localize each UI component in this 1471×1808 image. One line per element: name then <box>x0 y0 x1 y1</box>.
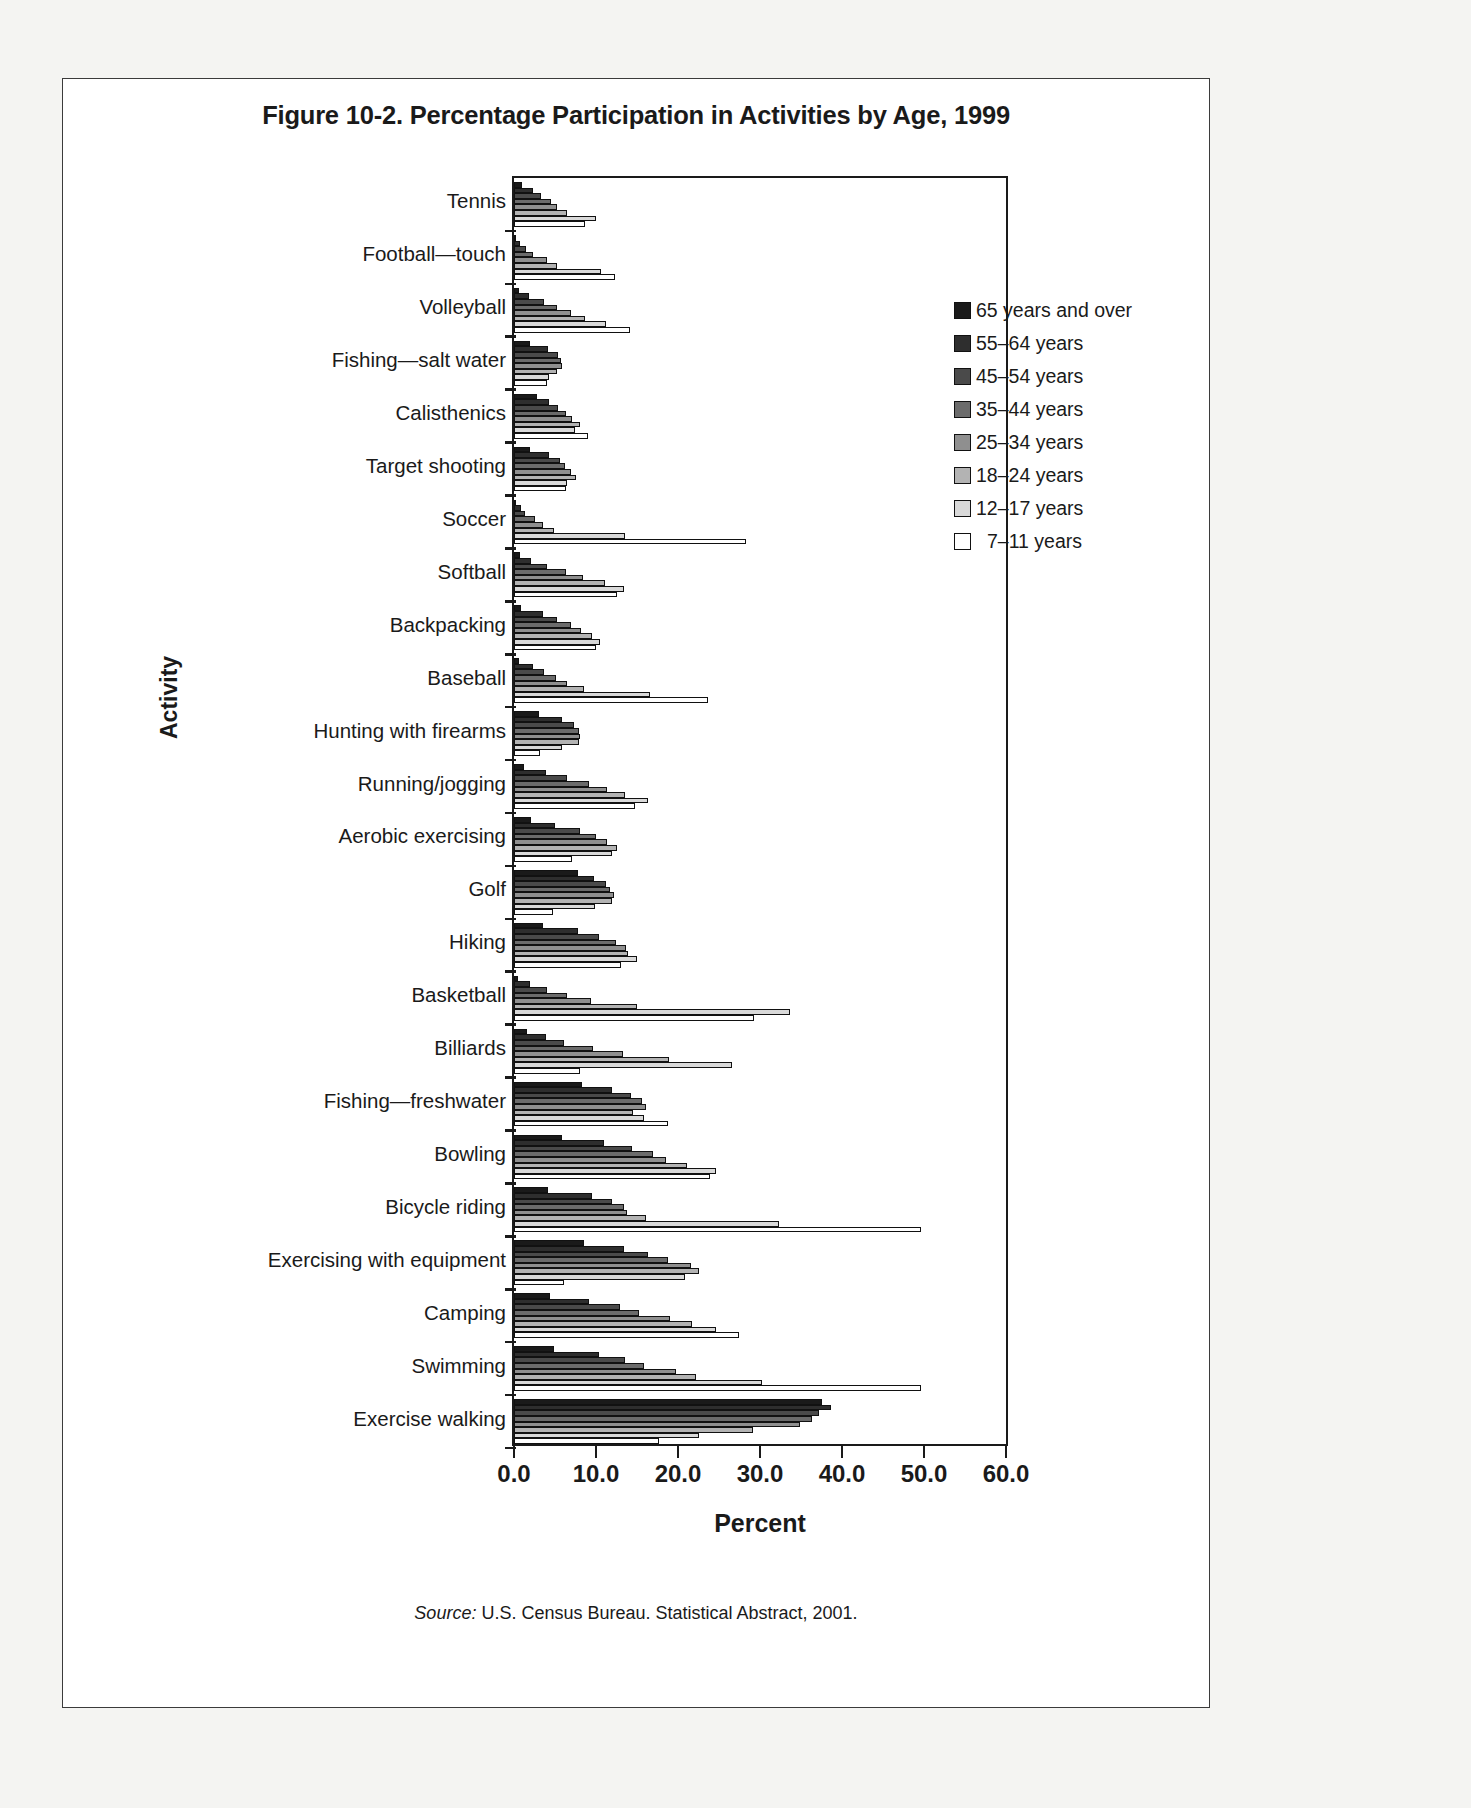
legend-item: 65 years and over <box>954 294 1194 327</box>
x-tick-label: 30.0 <box>737 1460 784 1488</box>
y-tick <box>505 970 516 973</box>
bar-group <box>514 552 1006 597</box>
category-label: Baseball <box>427 666 506 690</box>
bar <box>514 1280 564 1286</box>
category-label: Basketball <box>411 983 506 1007</box>
legend-label: 45–54 years <box>976 365 1083 388</box>
bar <box>514 486 566 492</box>
bar <box>514 750 540 756</box>
bar <box>514 1438 659 1444</box>
y-tick <box>505 600 516 603</box>
legend-swatch <box>954 434 971 451</box>
bar-group <box>514 341 1006 386</box>
category-label: Fishing—freshwater <box>324 1089 506 1113</box>
y-tick <box>505 653 516 656</box>
category-label: Hiking <box>449 930 506 954</box>
bar-group <box>514 447 1006 492</box>
bar <box>514 856 572 862</box>
legend-swatch <box>954 500 971 517</box>
category-label: Backpacking <box>390 613 506 637</box>
y-tick <box>505 1129 516 1132</box>
category-label: Football—touch <box>362 242 506 266</box>
x-axis: 0.010.020.030.040.050.060.0 <box>512 1446 1008 1492</box>
x-tick <box>841 1446 844 1458</box>
legend-swatch <box>954 302 971 319</box>
legend-label: 18–24 years <box>976 464 1083 487</box>
y-tick <box>505 1341 516 1344</box>
bar <box>514 1385 921 1391</box>
bar-group <box>514 870 1006 915</box>
bar-group <box>514 923 1006 968</box>
y-tick <box>505 283 516 286</box>
category-label: Calisthenics <box>395 401 506 425</box>
x-tick-label: 60.0 <box>983 1460 1030 1488</box>
bar-group <box>514 394 1006 439</box>
legend: 65 years and over55–64 years45–54 years3… <box>954 294 1194 558</box>
legend-item: 25–34 years <box>954 426 1194 459</box>
bar-group <box>514 658 1006 703</box>
category-label: Exercising with equipment <box>268 1248 506 1272</box>
y-tick <box>505 494 516 497</box>
legend-label: 7–11 years <box>987 530 1082 553</box>
bar-group <box>514 976 1006 1021</box>
bar-group <box>514 1135 1006 1180</box>
page-canvas: Figure 10-2. Percentage Participation in… <box>0 0 1471 1808</box>
category-label: Soccer <box>442 507 506 531</box>
category-label: Swimming <box>411 1354 506 1378</box>
category-label: Fishing—salt water <box>332 348 506 372</box>
bar <box>514 274 615 280</box>
category-label: Hunting with firearms <box>313 719 506 743</box>
bar-group <box>514 605 1006 650</box>
y-tick <box>505 865 516 868</box>
legend-label: 12–17 years <box>976 497 1083 520</box>
legend-label: 55–64 years <box>976 332 1083 355</box>
legend-item: 55–64 years <box>954 327 1194 360</box>
bar <box>514 1121 668 1127</box>
y-tick <box>505 547 516 550</box>
category-label: Volleyball <box>419 295 506 319</box>
legend-item: 45–54 years <box>954 360 1194 393</box>
bar-group <box>514 235 1006 280</box>
x-axis-title: Percent <box>512 1509 1008 1538</box>
category-label: Bicycle riding <box>385 1195 506 1219</box>
y-tick <box>505 706 516 709</box>
legend-swatch <box>954 533 971 550</box>
legend-swatch <box>954 467 971 484</box>
bar <box>514 1332 739 1338</box>
category-label: Golf <box>468 877 506 901</box>
x-tick <box>595 1446 598 1458</box>
source-prefix: Source: <box>414 1603 476 1623</box>
category-label: Bowling <box>434 1142 506 1166</box>
bar-group <box>514 500 1006 545</box>
bar-group <box>514 182 1006 227</box>
bar <box>514 909 553 915</box>
bar-group <box>514 1082 1006 1127</box>
y-tick <box>505 1288 516 1291</box>
legend-label: 25–34 years <box>976 431 1083 454</box>
category-label: Exercise walking <box>353 1407 506 1431</box>
bar-group <box>514 1240 1006 1285</box>
plot-area: 65 years and over55–64 years45–54 years3… <box>512 176 1008 1446</box>
y-tick <box>505 1394 516 1397</box>
bar <box>514 1227 921 1233</box>
legend-label: 35–44 years <box>976 398 1083 421</box>
bar <box>514 962 621 968</box>
y-tick <box>505 1076 516 1079</box>
y-tick <box>505 1235 516 1238</box>
bar-group <box>514 711 1006 756</box>
bar <box>514 433 588 439</box>
bar-group <box>514 1293 1006 1338</box>
bar <box>514 697 708 703</box>
bar <box>514 327 630 333</box>
figure-sheet: Figure 10-2. Percentage Participation in… <box>62 78 1210 1708</box>
legend-swatch <box>954 401 971 418</box>
y-tick <box>505 1182 516 1185</box>
x-tick <box>923 1446 926 1458</box>
bars-container <box>514 178 1006 1444</box>
legend-item: 18–24 years <box>954 459 1194 492</box>
bar <box>514 592 617 598</box>
bar <box>514 380 547 386</box>
legend-swatch <box>954 335 971 352</box>
bar <box>514 1015 754 1021</box>
category-labels: TennisFootball—touchVolleyballFishing—sa… <box>63 176 506 1446</box>
